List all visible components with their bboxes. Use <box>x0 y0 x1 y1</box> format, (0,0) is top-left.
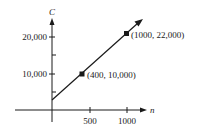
point-label-1000: (1000, 22,000) <box>131 30 184 40</box>
x-axis-arrow-icon <box>140 108 147 113</box>
y-axis-label: C <box>49 7 56 17</box>
y-axis-arrow-icon <box>50 18 55 25</box>
point-1000-22000 <box>124 31 129 36</box>
y-tick-label-20000: 20,000 <box>22 32 47 42</box>
chart: n C 500 1000 10,000 20,000 (400, 10,000)… <box>0 0 207 131</box>
point-400-10000 <box>80 72 85 77</box>
x-tick-label-1000: 1000 <box>118 116 137 126</box>
y-tick-label-10000: 10,000 <box>22 69 47 79</box>
point-label-400: (400, 10,000) <box>87 70 136 80</box>
x-tick-label-500: 500 <box>83 116 97 126</box>
x-axis-label: n <box>150 105 155 115</box>
